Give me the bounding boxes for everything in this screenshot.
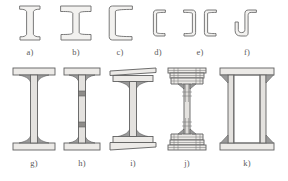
wide-flange-i-beam-icon xyxy=(56,0,96,46)
section-caption-b: b) xyxy=(72,47,79,57)
small-channel-section-icon xyxy=(143,0,173,46)
section-caption-k: k) xyxy=(243,158,250,168)
box-girder-icon xyxy=(214,62,280,156)
welded-plate-girder-icon xyxy=(8,62,60,156)
steel-sections-figure: a) b) c) d) xyxy=(0,0,288,181)
plate-girder-with-cover-plates-icon xyxy=(106,62,160,156)
double-channel-section-icon xyxy=(178,0,222,46)
section-item-k: k) xyxy=(214,62,280,181)
sections-row-bottom: g) h) xyxy=(0,62,288,181)
section-item-c: c) xyxy=(102,0,138,66)
section-item-d: d) xyxy=(143,0,173,66)
section-item-e: e) xyxy=(178,0,222,66)
section-item-b: b) xyxy=(56,0,96,66)
section-caption-a: a) xyxy=(26,47,33,57)
section-item-f: f) xyxy=(228,0,266,66)
riveted-built-up-girder-icon xyxy=(158,62,216,156)
section-caption-j: j) xyxy=(184,158,190,168)
section-caption-g: g) xyxy=(30,158,37,168)
plate-girder-with-web-stiffeners-icon xyxy=(58,62,106,156)
channel-section-icon xyxy=(102,0,138,46)
z-section-icon xyxy=(228,0,266,46)
section-caption-c: c) xyxy=(116,47,123,57)
section-item-i: i) xyxy=(106,62,160,181)
section-item-j: j) xyxy=(158,62,216,181)
section-item-a: a) xyxy=(12,0,48,66)
section-caption-f: f) xyxy=(244,47,250,57)
section-caption-d: d) xyxy=(154,47,161,57)
section-item-h: h) xyxy=(58,62,106,181)
section-caption-i: i) xyxy=(130,158,136,168)
sections-row-top: a) b) c) d) xyxy=(0,0,288,66)
section-caption-h: h) xyxy=(78,158,85,168)
narrow-flange-i-beam-icon xyxy=(12,0,48,46)
section-item-g: g) xyxy=(8,62,60,181)
section-caption-e: e) xyxy=(196,47,203,57)
